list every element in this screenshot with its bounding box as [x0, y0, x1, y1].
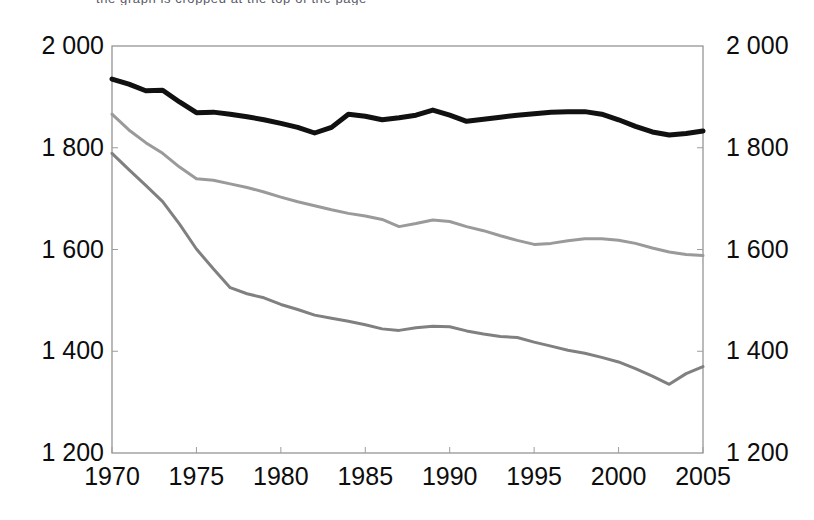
data-line-series-dark-gray — [112, 153, 703, 384]
chart-plot-area — [0, 0, 814, 520]
y-axis-left-tick-label: 1 600 — [0, 237, 104, 262]
plot-border — [112, 46, 703, 453]
y-axis-left-tick-label: 1 400 — [0, 338, 104, 363]
y-axis-right-tick-label: 1 200 — [726, 440, 789, 465]
y-axis-right-tick-label: 2 000 — [726, 33, 789, 58]
y-axis-right-tick-label: 1 800 — [726, 135, 789, 160]
plot-frame — [112, 46, 703, 453]
y-axis-right-tick-label: 1 400 — [726, 338, 789, 363]
axis-tick-marks — [112, 148, 703, 453]
data-line-series-light-gray — [112, 114, 703, 255]
x-axis-tick-label: 1985 — [325, 464, 405, 489]
x-axis-tick-label: 2005 — [663, 464, 743, 489]
y-axis-right-tick-label: 1 600 — [726, 237, 789, 262]
x-axis-tick-label: 1970 — [72, 464, 152, 489]
x-axis-tick-label: 1995 — [494, 464, 574, 489]
y-axis-left-tick-label: 2 000 — [0, 33, 104, 58]
data-line-series-black — [112, 79, 703, 135]
x-axis-tick-label: 1975 — [156, 464, 236, 489]
chart-figure: the graph is cropped at the top of the p… — [0, 0, 814, 520]
data-series-layer — [112, 79, 703, 384]
x-axis-tick-label: 2000 — [579, 464, 659, 489]
x-axis-tick-label: 1980 — [241, 464, 321, 489]
x-axis-tick-label: 1990 — [410, 464, 490, 489]
y-axis-left-tick-label: 1 800 — [0, 135, 104, 160]
